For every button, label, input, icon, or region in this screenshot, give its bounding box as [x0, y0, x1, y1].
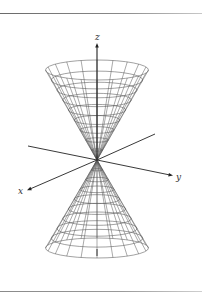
bottom-nappe-generator [81, 160, 97, 238]
double-cone-figure: z y x [0, 0, 202, 295]
bottom-nappe-generator [97, 160, 113, 238]
bottom-nappe-generator [97, 160, 139, 242]
x-axis-arrow-icon [27, 187, 32, 190]
z-axis-arrow-icon [95, 43, 99, 48]
bottom-nappe-generator [67, 160, 97, 240]
top-nappe-generator [97, 80, 113, 160]
x-axis-negative-line [97, 134, 155, 160]
y-axis-line [97, 160, 170, 175]
top-nappe-generator [55, 64, 97, 160]
bottom-nappe-generator [48, 160, 97, 245]
x-axis-line [30, 160, 97, 189]
bottom-nappe-generator [97, 160, 146, 245]
y-axis-arrow-icon [168, 173, 173, 177]
bottom-nappe-generator [55, 160, 97, 254]
top-nappe-generator [46, 70, 98, 160]
y-axis-negative-line [28, 146, 97, 160]
top-nappe-generator [97, 76, 139, 160]
top-nappe-generator [55, 76, 97, 160]
y-axis-label: y [175, 172, 182, 182]
top-nappe-generator [97, 64, 139, 160]
bottom-nappe-generator [97, 160, 127, 240]
bottom-nappe-generator [97, 160, 139, 254]
top-nappe-generator [97, 73, 146, 160]
bottom-rule [0, 291, 202, 292]
z-axis-label: z [94, 32, 100, 42]
top-nappe-generator [81, 80, 97, 160]
x-axis-label: x [18, 186, 23, 196]
top-nappe-generator [67, 78, 97, 160]
top-nappe-generator [97, 78, 127, 160]
bottom-nappe-generator [55, 160, 97, 242]
